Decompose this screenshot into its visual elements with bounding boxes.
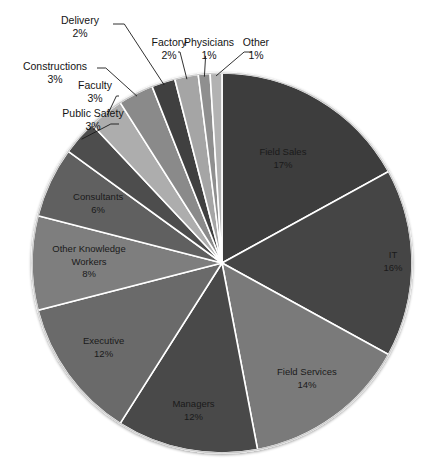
outside-label-public-safety: Public Safety 3% [43, 107, 143, 132]
inside-label-executive-name: Executive [83, 335, 124, 346]
outside-label-delivery-pct: 2% [49, 27, 111, 40]
outside-label-public-safety-name: Public Safety [43, 107, 143, 120]
outside-label-physicians: Physicians 1% [178, 36, 240, 61]
inside-label-it-name: IT [389, 249, 398, 260]
inside-label-it-pct: 16% [383, 262, 403, 273]
inside-label-managers-name: Managers [172, 398, 214, 409]
outside-label-constructions: Constructions 3% [12, 60, 98, 85]
outside-label-constructions-name: Constructions [12, 60, 98, 73]
inside-label-field-sales-name: Field Sales [259, 146, 306, 157]
inside-label-executive-pct: 12% [94, 348, 114, 359]
inside-label-managers-pct: 12% [184, 411, 204, 422]
outside-label-delivery-name: Delivery [49, 14, 111, 27]
outside-label-faculty-pct: 3% [64, 92, 126, 105]
outside-label-constructions-pct: 3% [12, 73, 98, 86]
inside-label-field-sales-pct: 17% [273, 159, 293, 170]
outside-label-physicians-pct: 1% [178, 49, 240, 62]
inside-label-consultants-pct: 6% [91, 204, 105, 215]
outside-label-other-name: Other [232, 36, 280, 49]
inside-label-other-knowledge-workers-pct: 8% [82, 268, 96, 279]
inside-label-other-knowledge-workers-name: Other Knowledge [52, 243, 125, 254]
inside-label-field-services-name: Field Services [277, 366, 337, 377]
inside-label-field-services-pct: 14% [297, 379, 317, 390]
inside-label-other-knowledge-workers-name2: Workers [71, 256, 106, 267]
outside-label-physicians-name: Physicians [178, 36, 240, 49]
inside-label-consultants-name: Consultants [73, 191, 123, 202]
outside-label-other: Other 1% [232, 36, 280, 61]
pie-chart: Field Sales17%IT16%Field Services14%Mana… [0, 0, 426, 471]
outside-label-delivery: Delivery 2% [49, 14, 111, 39]
outside-label-other-pct: 1% [232, 49, 280, 62]
outside-label-public-safety-pct: 3% [43, 120, 143, 133]
